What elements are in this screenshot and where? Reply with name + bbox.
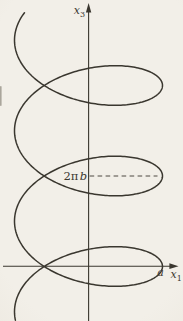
radius-label: a: [157, 266, 164, 279]
x1-axis-subscript: 1: [177, 274, 182, 283]
x1-axis-label: x1: [171, 268, 182, 283]
scan-edge-artifact: [0, 86, 2, 106]
x3-axis-subscript: 3: [80, 10, 85, 19]
pitch-coefficient: 2π: [64, 169, 79, 183]
x3-axis-label: x3: [74, 4, 85, 19]
pitch-label: 2πb: [64, 169, 87, 183]
figure-page: x3 x1 a 2πb: [0, 0, 183, 321]
arrow-up-icon: [86, 3, 91, 12]
helix-diagram: x3 x1 a 2πb: [0, 0, 183, 321]
pitch-variable: b: [80, 169, 87, 183]
